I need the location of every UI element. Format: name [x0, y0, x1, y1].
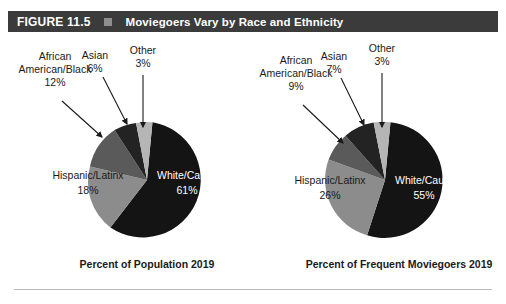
label-asian-right: Asian — [321, 50, 347, 62]
label-other-right: Other — [369, 42, 396, 54]
label-african-american-line1-right: African — [280, 54, 313, 66]
pie-chart-frequent-moviegoers: Other 3% Asian 7% African American/Black… — [260, 42, 475, 238]
label-african-american-line2-left: American/Black — [19, 63, 93, 75]
label-white-caucasian-left: White/Caucasian — [157, 169, 237, 181]
pie-chart-population: Other 3% Asian 6% African American/Black… — [19, 44, 237, 237]
figure-number: FIGURE 11.5 — [17, 15, 91, 29]
label-hispanic-latinx-left: Hispanic/Latinx — [52, 169, 124, 181]
label-african-american-line1-left: African — [39, 50, 72, 62]
label-white-caucasian-pct-right: 55% — [413, 189, 434, 201]
label-hispanic-latinx-right: Hispanic/Latinx — [294, 174, 366, 186]
label-asian-left: Asian — [82, 49, 108, 61]
figure-title: Moviegoers Vary by Race and Ethnicity — [126, 16, 344, 28]
label-white-caucasian-right: White/Caucasian — [395, 174, 475, 186]
leader-line-african-american-left — [62, 101, 102, 137]
pie-charts-svg: Other 3% Asian 6% African American/Black… — [0, 32, 506, 272]
leader-line-african-american-right — [303, 105, 343, 143]
label-white-caucasian-pct-left: 61% — [176, 184, 197, 196]
caption-population: Percent of Population 2019 — [0, 258, 294, 270]
label-african-american-pct-right: 9% — [288, 80, 303, 92]
square-marker-icon — [104, 18, 112, 26]
label-african-american-pct-left: 12% — [44, 76, 65, 88]
label-african-american-line2-right: American/Black — [260, 67, 334, 79]
charts-area: Other 3% Asian 6% African American/Black… — [0, 32, 506, 272]
label-hispanic-latinx-pct-right: 26% — [319, 189, 340, 201]
figure-header-band: FIGURE 11.5 Moviegoers Vary by Race and … — [8, 11, 498, 32]
label-other-pct-left: 3% — [135, 57, 150, 69]
caption-frequent-moviegoers: Percent of Frequent Moviegoers 2019 — [252, 258, 506, 270]
label-other-left: Other — [130, 44, 157, 56]
leader-line-asian-right — [341, 78, 364, 125]
figure-container: FIGURE 11.5 Moviegoers Vary by Race and … — [0, 0, 506, 304]
label-other-pct-right: 3% — [374, 55, 389, 67]
leader-line-asian-left — [103, 77, 127, 124]
label-hispanic-latinx-pct-left: 18% — [77, 184, 98, 196]
bottom-divider — [14, 289, 492, 290]
